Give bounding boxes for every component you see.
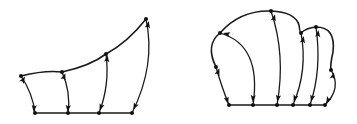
vertex-node <box>251 103 255 107</box>
vertex-node <box>308 103 312 107</box>
vertex-node <box>60 70 64 74</box>
boundary-curve <box>211 11 333 70</box>
left-diagram <box>19 17 151 115</box>
vertex-node <box>130 111 134 115</box>
right-diagram <box>211 9 336 107</box>
vertex-node <box>214 65 218 69</box>
arrowhead-icon <box>250 95 256 102</box>
vertex-node <box>269 9 273 13</box>
flow-edge <box>310 27 318 105</box>
diagram-canvas <box>0 0 357 124</box>
flow-edge <box>271 11 280 105</box>
vertex-node <box>33 111 37 115</box>
vertex-node <box>144 17 148 21</box>
vertex-node <box>104 52 108 56</box>
boundary-curve <box>21 19 146 76</box>
vertex-node <box>97 111 101 115</box>
vertex-node <box>323 103 327 107</box>
arrowhead-icon <box>97 103 104 111</box>
vertex-node <box>329 68 333 72</box>
vertex-node <box>275 103 279 107</box>
arrowhead-icon <box>300 36 306 44</box>
vertex-node <box>299 31 303 35</box>
flow-edge <box>293 33 303 105</box>
vertex-node <box>19 74 23 78</box>
vertex-node <box>66 111 70 115</box>
vertex-node <box>218 31 222 35</box>
vertex-node <box>314 25 318 29</box>
vertex-node <box>227 103 231 107</box>
arrowhead-icon <box>131 102 139 111</box>
vertex-node <box>291 103 295 107</box>
